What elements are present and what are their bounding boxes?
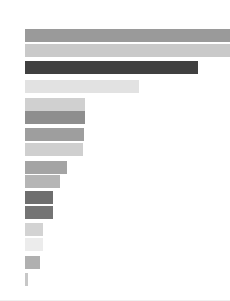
bar-row[interactable] [25, 44, 230, 57]
bar-12[interactable] [25, 206, 53, 219]
bar-row[interactable] [25, 128, 84, 141]
bar-row[interactable] [25, 223, 43, 236]
bar-16[interactable] [25, 273, 28, 286]
bar-1[interactable] [25, 29, 230, 42]
bar-14[interactable] [25, 238, 43, 251]
bar-4[interactable] [25, 80, 139, 93]
bar-row[interactable] [25, 256, 40, 269]
bar-row[interactable] [25, 161, 67, 174]
bar-7[interactable] [25, 128, 84, 141]
chart-right-edge [229, 0, 230, 301]
bar-row[interactable] [25, 238, 43, 251]
bar-row[interactable] [25, 29, 230, 42]
bar-row[interactable] [25, 80, 139, 93]
bar-row[interactable] [25, 111, 85, 124]
bar-2[interactable] [25, 44, 230, 57]
bar-13[interactable] [25, 223, 43, 236]
bar-6[interactable] [25, 111, 85, 124]
bar-15[interactable] [25, 256, 40, 269]
bar-row[interactable] [25, 98, 85, 111]
bar-10[interactable] [25, 175, 60, 188]
bar-row[interactable] [25, 143, 83, 156]
bar-chart [0, 0, 230, 301]
bar-3[interactable] [25, 61, 198, 74]
plot-area [0, 0, 230, 301]
bar-row[interactable] [25, 191, 53, 204]
bar-11[interactable] [25, 191, 53, 204]
bar-5[interactable] [25, 98, 85, 111]
bar-8[interactable] [25, 143, 83, 156]
bar-row[interactable] [25, 175, 60, 188]
bar-row[interactable] [25, 61, 198, 74]
bar-row[interactable] [25, 273, 28, 286]
bar-row[interactable] [25, 206, 53, 219]
bar-9[interactable] [25, 161, 67, 174]
